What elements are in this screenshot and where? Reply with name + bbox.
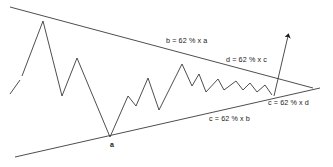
- annotation-point-a: a: [110, 141, 114, 148]
- annotation-c-from-d-ratio: c = 62 % x d: [268, 98, 309, 107]
- upper-trendline-resistance: [10, 7, 313, 88]
- chart-pattern-figure: b = 62 % x a d = 62 % x c c = 62 % x b c…: [0, 0, 333, 167]
- annotation-c-from-b-ratio: c = 62 % x b: [209, 114, 250, 123]
- annotation-d-ratio: d = 62 % x c: [226, 55, 267, 64]
- entry-line-fragment: [10, 80, 20, 94]
- breakout-arrow: [274, 36, 288, 96]
- annotation-b-ratio: b = 62 % x a: [166, 36, 207, 45]
- pattern-drawing: [0, 0, 333, 167]
